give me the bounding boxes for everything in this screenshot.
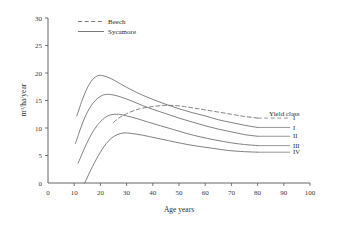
x-tick-label: 20: [97, 189, 105, 197]
x-tick-label: 70: [228, 189, 236, 197]
y-tick-label: 5: [39, 152, 43, 160]
x-tick-label: 40: [149, 189, 157, 197]
yield-class-label: I: [293, 114, 295, 121]
x-tick-label: 90: [280, 189, 288, 197]
y-axis-title: m3/ha/year: [19, 83, 28, 116]
chart-container: 0102030405060708090100 051015202530 Beec…: [0, 0, 339, 225]
legend-label-sycamore: Sycamore: [108, 28, 136, 36]
yield-class-heading: Yield class: [269, 110, 300, 118]
x-tick-label: 0: [46, 189, 50, 197]
y-tick-label: 15: [35, 97, 43, 105]
y-axis-title-rest: /ha/year: [19, 83, 28, 108]
x-axis-title: Age years: [164, 205, 194, 214]
yield-class-label: I: [293, 124, 295, 131]
x-tick-label: 60: [202, 189, 210, 197]
y-tick-label: 25: [35, 42, 43, 50]
legend-label-beech: Beech: [108, 18, 126, 26]
y-tick-label: 30: [35, 15, 43, 23]
y-tick-label: 10: [35, 125, 43, 133]
yield-class-label: II: [293, 132, 297, 139]
x-tick-label: 50: [176, 189, 184, 197]
x-tick-label: 10: [71, 189, 79, 197]
yield-class-label: IV: [293, 148, 300, 155]
y-tick-label: 20: [35, 70, 43, 78]
x-tick-label: 30: [123, 189, 131, 197]
chart-plot-area: 0102030405060708090100 051015202530 Beec…: [0, 0, 339, 225]
x-tick-label: 100: [305, 189, 316, 197]
y-tick-label: 0: [39, 180, 43, 188]
x-tick-label: 80: [254, 189, 262, 197]
